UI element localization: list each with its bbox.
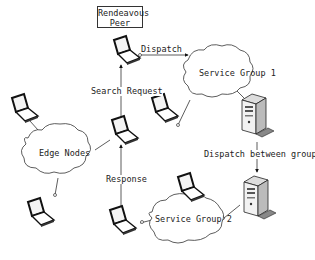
dispatch-between-groups-label: Dispatch between groups bbox=[204, 150, 315, 159]
laptop-rendezvous-icon bbox=[114, 36, 140, 65]
search-request-label: Search Request bbox=[91, 87, 163, 96]
service-group-1-label: Service Group 1 bbox=[199, 69, 276, 78]
server-1-icon bbox=[242, 94, 274, 137]
laptop-edge-top-icon bbox=[12, 94, 38, 123]
laptop-sg1-icon bbox=[152, 94, 178, 123]
dispatch-label: Dispatch bbox=[141, 45, 182, 54]
service-group-2-label: Service Group 2 bbox=[155, 215, 232, 224]
server-2-icon bbox=[244, 176, 276, 219]
laptop-sg2-left-icon bbox=[110, 206, 136, 235]
rendezvous-peer-line1: Rendeavous bbox=[98, 8, 142, 18]
rendezvous-peer-box: Rendeavous Peer bbox=[97, 6, 143, 28]
laptop-edge-bottom-icon bbox=[28, 198, 54, 227]
rendezvous-peer-line2: Peer bbox=[98, 18, 142, 28]
edge-nodes-label: Edge Nodes bbox=[39, 149, 90, 158]
response-label: Response bbox=[106, 175, 147, 184]
laptop-center-icon bbox=[112, 116, 138, 145]
